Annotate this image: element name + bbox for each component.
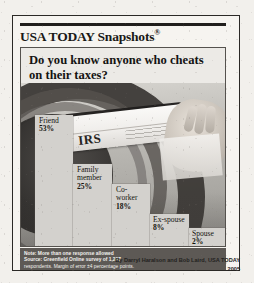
bar-value-friend: 53% — [39, 124, 54, 133]
snapshot-frame: USA TODAY Snapshots® IRS Do you know any… — [12, 15, 240, 271]
finger — [205, 106, 216, 134]
byline-credit: By Darryl Haralson and Bob Laird, USA TO… — [115, 257, 240, 263]
bar-value-ex-spouse: 8% — [153, 223, 164, 232]
masthead-rule — [20, 23, 226, 26]
bar-label-ex-spouse: Ex-spouse 8% — [153, 216, 185, 233]
byline-year: 2005 — [40, 265, 240, 274]
bar-label-co-worker: Co- worker 18% — [116, 186, 138, 211]
page-title: Do you know anyone who cheats on their t… — [29, 53, 217, 82]
bar-value-spouse: 2% — [192, 237, 203, 246]
bar-label-friend: Friend 53% — [39, 117, 59, 134]
envelope-irs-label: IRS — [77, 130, 102, 149]
background-paper — [159, 133, 222, 180]
masthead-title: USA TODAY Snapshots® — [20, 28, 230, 45]
registered-mark-icon: ® — [154, 28, 160, 37]
byline: By Darryl Haralson and Bob Laird, USA TO… — [40, 256, 240, 273]
masthead-brand: USA TODAY Snapshots — [20, 29, 154, 44]
bar-value-family-member: 25% — [77, 182, 92, 191]
chart-panel: IRS Do you know anyone who cheats on the… — [20, 47, 226, 247]
bar-value-co-worker: 18% — [116, 202, 131, 211]
bar-friend — [35, 115, 73, 246]
bar-label-family-member: Family member 25% — [77, 166, 102, 191]
bar-label-spouse: Spouse 2% — [192, 230, 214, 247]
